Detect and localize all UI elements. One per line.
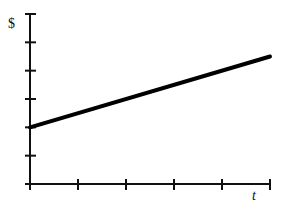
y-axis-label: $ <box>8 16 15 32</box>
data-line <box>30 57 270 128</box>
x-axis <box>30 179 270 190</box>
line-chart <box>0 0 282 212</box>
y-axis <box>25 14 36 185</box>
x-axis-label: t <box>252 188 256 204</box>
